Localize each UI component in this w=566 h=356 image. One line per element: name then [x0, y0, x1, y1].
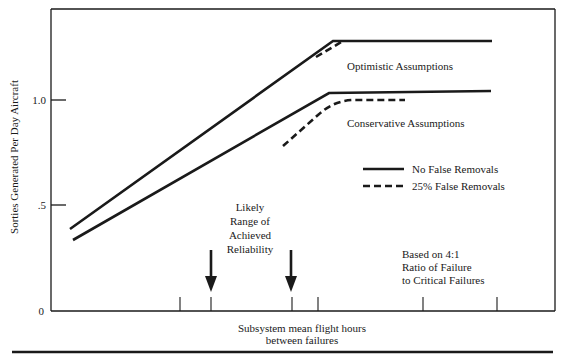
plot-frame	[51, 9, 555, 311]
svg-text:Based on 4:1: Based on 4:1	[402, 248, 459, 260]
y-tick-label-0: 0	[39, 305, 45, 317]
svg-text:to Critical Failures: to Critical Failures	[402, 274, 484, 286]
legend: No False Removals 25% False Removals	[363, 163, 505, 192]
svg-text:Range of: Range of	[230, 215, 270, 227]
annotation-conservative: Conservative Assumptions	[347, 117, 465, 129]
arrow-down-icon	[205, 250, 217, 292]
annotation-optimistic: Optimistic Assumptions	[347, 60, 453, 72]
ratio-note: Based on 4:1 Ratio of Failure to Critica…	[402, 248, 484, 286]
y-tick-label-1: 1.0	[32, 94, 46, 106]
svg-text:Ratio of Failure: Ratio of Failure	[402, 261, 472, 273]
y-axis-label: Sorties Generated Per Day Aircraft	[8, 80, 20, 234]
x-ticks	[180, 297, 497, 311]
chart-canvas: 1.0 .5 0 Sorties Generated Per Day Aircr…	[0, 0, 566, 356]
svg-text:Reliability: Reliability	[227, 243, 274, 255]
svg-text:Achieved: Achieved	[229, 229, 272, 241]
x-axis-label-line2: between failures	[266, 334, 338, 346]
arrow-down-icon	[285, 250, 297, 292]
legend-solid-label: No False Removals	[412, 163, 498, 175]
svg-text:Likely: Likely	[236, 201, 265, 213]
legend-dashed-label: 25% False Removals	[412, 180, 505, 192]
likely-range-annotation: Likely Range of Achieved Reliability	[227, 201, 274, 255]
y-ticks	[51, 100, 66, 205]
x-axis-label-line1: Subsystem mean flight hours	[238, 322, 366, 334]
y-tick-label-05: .5	[38, 199, 47, 211]
